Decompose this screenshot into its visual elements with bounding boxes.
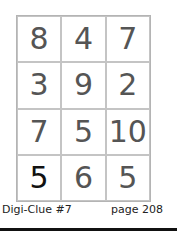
grid-cell: 5 — [61, 109, 105, 155]
grid-cell-highlighted: 5 — [17, 155, 61, 201]
grid-cell: 3 — [17, 62, 61, 108]
grid-cell: 10 — [106, 109, 150, 155]
grid-cell: 5 — [106, 155, 150, 201]
grid-cell: 9 — [61, 62, 105, 108]
grid-cell: 7 — [106, 16, 150, 62]
divider-rule — [0, 228, 177, 231]
grid-cell: 7 — [17, 109, 61, 155]
grid-cell: 4 — [61, 16, 105, 62]
grid-cell: 6 — [61, 155, 105, 201]
puzzle-title: Digi-Clue #7 — [2, 203, 72, 216]
page-number: page 208 — [111, 203, 163, 216]
grid-cell: 2 — [106, 62, 150, 108]
grid-cell: 8 — [17, 16, 61, 62]
number-grid: 8 4 7 3 9 2 7 5 10 5 6 5 — [16, 15, 151, 202]
